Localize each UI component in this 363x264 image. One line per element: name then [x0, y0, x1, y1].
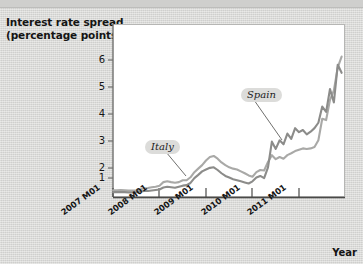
italy-leader-line	[166, 152, 186, 176]
series-line-spain	[113, 65, 342, 193]
y-tick-label-1: 1	[91, 172, 105, 183]
series-label-italy: Italy	[145, 140, 180, 154]
series-line-italy	[113, 57, 342, 191]
y-tick-label-3: 3	[91, 135, 105, 146]
chart-canvas	[0, 0, 363, 264]
y-tick-marks	[108, 60, 113, 178]
chart-figure: Interest rate spread (percentage points)	[0, 0, 363, 264]
y-tick-label-5: 5	[91, 81, 105, 92]
spain-leader-line	[254, 100, 282, 140]
y-tick-label-6: 6	[91, 54, 105, 65]
series-label-spain: Spain	[241, 88, 282, 102]
y-tick-label-4: 4	[91, 108, 105, 119]
x-axis-title: Year	[332, 247, 357, 258]
